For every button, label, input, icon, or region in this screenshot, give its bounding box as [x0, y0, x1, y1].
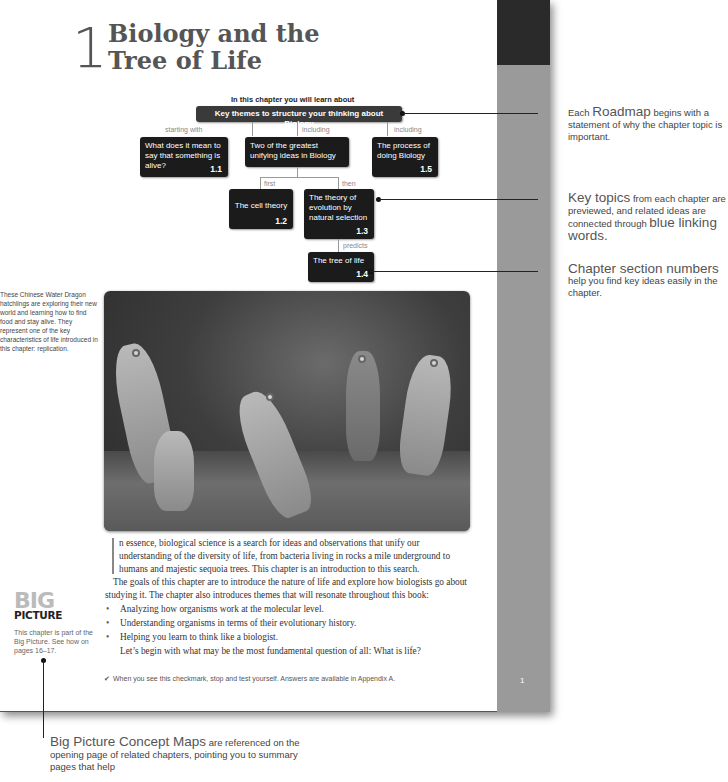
annot-emphasis: Key topics: [568, 190, 630, 205]
roadmap-box-evolution: The theory of evolution by natural selec…: [304, 189, 374, 239]
lizard: [346, 351, 380, 461]
roadmap-main-box: Key themes to structure your thinking ab…: [196, 106, 402, 122]
connector: [252, 122, 253, 136]
annot-text: Each: [568, 107, 592, 118]
section-number: 1.1: [210, 164, 222, 174]
bullet-item: Analyzing how organisms work at the mole…: [106, 603, 324, 616]
lizard: [154, 431, 194, 511]
photo-water-dragons: [104, 291, 470, 531]
connector: [338, 239, 339, 252]
annot-emphasis: Roadmap: [592, 104, 651, 119]
body-para-3: Let’s begin with what may be the most fu…: [120, 645, 475, 658]
link-first: first: [264, 180, 275, 187]
box-text: The tree of life: [313, 256, 364, 265]
big-picture-logo: BIG PICTURE: [14, 592, 80, 621]
connector: [260, 177, 261, 189]
body-para-2: The goals of this chapter are to introdu…: [105, 576, 475, 602]
section-number: 1.3: [356, 226, 368, 236]
connector: [387, 122, 388, 136]
link-including: including: [302, 126, 330, 133]
link-then: then: [342, 180, 356, 187]
roadmap-box-unifying: Two of the greatest unifying ideas in Bi…: [245, 137, 349, 167]
annot-text: help you find key ideas easily in the ch…: [568, 275, 728, 299]
link-including: including: [394, 126, 422, 133]
box-text: The cell theory: [235, 201, 287, 210]
side-band: [497, 0, 550, 712]
section-number: 1.4: [356, 269, 368, 279]
roadmap-intro: In this chapter you will learn about: [231, 95, 354, 104]
box-text: Two of the greatest unifying ideas in Bi…: [250, 141, 336, 160]
bullet-text: Helping you learn to think like a biolog…: [120, 632, 278, 642]
section-number: 1.2: [275, 216, 287, 226]
callout-line-sections: [370, 271, 538, 272]
bullet-item: Helping you learn to think like a biolog…: [106, 631, 278, 644]
checkmark-note: ✔When you see this checkmark, stop and t…: [104, 675, 395, 683]
link-starting-with: starting with: [165, 126, 202, 133]
big-picture-logo-top: BIG: [14, 592, 80, 610]
dropcap-bar: [112, 538, 114, 574]
chapter-title-line1: Biology and the: [108, 20, 320, 47]
photo-caption: These Chinese Water Dragon hatchlings ar…: [0, 290, 100, 353]
roadmap-box-tree-of-life: The tree of life 1.4: [308, 252, 374, 282]
connector: [297, 122, 298, 136]
lizard-eye: [266, 393, 274, 401]
annotation-sections: Chapter section numbers help you find ke…: [568, 263, 728, 299]
chapter-number: 1: [72, 20, 108, 76]
callout-line-big-picture: [43, 660, 44, 738]
side-band-dark: [497, 0, 550, 65]
connector: [260, 177, 338, 178]
big-picture-logo-bottom: PICTURE: [14, 610, 80, 621]
body-para-1: n essence, biological science is a searc…: [119, 537, 474, 576]
annotation-big-picture: Big Picture Concept Maps are referenced …: [50, 736, 300, 773]
roadmap-box-cell-theory: The cell theory 1.2: [229, 189, 293, 229]
bullet-text: Understanding organisms in terms of thei…: [120, 618, 356, 628]
chapter-title-line2: Tree of Life: [108, 47, 320, 74]
checkmark-icon: ✔: [104, 675, 110, 682]
annotation-key-topics: Key topics from each chapter are preview…: [568, 192, 728, 243]
box-text: The theory of evolution by natural selec…: [309, 193, 367, 222]
connector: [338, 177, 339, 189]
lizard-eye: [358, 355, 366, 363]
page-number: 1: [520, 676, 524, 685]
connector: [297, 167, 298, 177]
big-picture-note: This chapter is part of the Big Picture.…: [14, 628, 94, 655]
callout-line-key-topics: [378, 199, 538, 200]
chapter-title: Biology and the Tree of Life: [108, 20, 320, 74]
link-predicts: predicts: [343, 242, 368, 249]
bullet-text: Analyzing how organisms work at the mole…: [120, 604, 324, 614]
checkmark-note-text: When you see this checkmark, stop and te…: [113, 675, 395, 682]
lizard-eye: [132, 349, 140, 357]
annotation-roadmap: Each Roadmap begins with a statement of …: [568, 106, 728, 143]
lizard-eye: [430, 359, 438, 367]
roadmap-box-process: The process of doing Biology 1.5: [372, 137, 438, 177]
section-number: 1.5: [420, 164, 432, 174]
callout-line-roadmap: [402, 113, 538, 114]
annot-emphasis: Big Picture Concept Maps: [50, 734, 206, 749]
bullet-item: Understanding organisms in terms of thei…: [106, 617, 356, 630]
box-text: The process of doing Biology: [377, 141, 430, 160]
annot-emphasis: Chapter section numbers: [568, 263, 728, 275]
roadmap-box-alive: What does it mean to say that something …: [140, 137, 228, 177]
